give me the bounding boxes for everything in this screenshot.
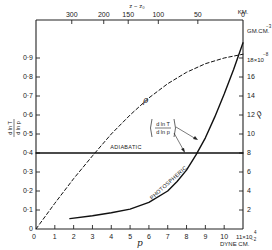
rho-curve-label: ρ	[142, 95, 149, 105]
adiabatic-label: ADIABATIC	[110, 144, 141, 150]
bottom-tick-label: 0	[32, 233, 36, 240]
left-tick-label: 0·5	[23, 130, 33, 137]
right-tick-label: 8	[247, 149, 251, 156]
left-tick-label: 0·6	[23, 111, 33, 118]
top-axis-label: z − z₀	[129, 3, 145, 9]
bottom-tick-label: 2	[72, 233, 76, 240]
gradient-annotation: d ln T d ln p	[151, 119, 199, 153]
bottom-tick-label: 8	[185, 233, 189, 240]
top-axis-unit: KM.	[238, 9, 249, 15]
photospheric-label: PHOTOSPHERIC	[149, 164, 188, 200]
bottom-tick-label: 10	[220, 233, 228, 240]
right-axis-multiplier: 18×10	[247, 57, 265, 63]
right-tick-label: 10	[247, 130, 255, 137]
left-tick-label: 0·4	[23, 149, 33, 156]
top-tick-label: 100	[152, 11, 164, 18]
left-tick-label: 0·8	[23, 73, 33, 80]
right-tick-label: 6	[247, 168, 251, 175]
left-tick-label: 0·9	[23, 54, 33, 61]
x-tick-last-exp: 4	[254, 230, 257, 235]
right-axis-unit-exp: −3	[266, 24, 272, 29]
left-tick-label: 0·2	[23, 187, 33, 194]
right-axis-multiplier-exp: −8	[263, 52, 269, 57]
bottom-tick-label: 5	[128, 233, 132, 240]
top-tick-label: 200	[98, 11, 110, 18]
right-tick-label: 2	[247, 206, 251, 213]
arrow-to-adiabatic	[174, 133, 184, 151]
top-tick-label: 50	[194, 11, 202, 18]
left-tick-label: 0·7	[23, 92, 33, 99]
bottom-tick-label: 4	[109, 233, 113, 240]
bottom-tick-label: 3	[91, 233, 95, 240]
svg-text:d ln p: d ln p	[156, 129, 169, 135]
left-tick-label: 0·3	[23, 168, 33, 175]
arrowhead-adiabatic	[181, 148, 185, 153]
right-tick-label: 4	[247, 187, 251, 194]
x-tick-last-label: 11×10	[236, 234, 253, 240]
bottom-tick-label: 1	[53, 233, 57, 240]
chart: 00·10·20·30·40·50·60·70·80·9 01234567891…	[0, 0, 272, 250]
x-axis-unit: DYNE CM.	[220, 241, 250, 247]
left-axis-label: d ln T d ln p	[7, 119, 21, 137]
svg-text:d ln T: d ln T	[7, 121, 13, 135]
arrow-to-photospheric	[176, 127, 196, 139]
bottom-tick-label: 9	[203, 233, 207, 240]
bottom-tick-label: 6	[147, 233, 151, 240]
left-tick-label: 0	[29, 225, 33, 232]
svg-text:d ln p: d ln p	[15, 121, 21, 134]
right-tick-label: 16	[247, 73, 255, 80]
top-tick-label: 300	[66, 11, 78, 18]
bottom-tick-label: 7	[166, 233, 170, 240]
left-tick-label: 0·1	[23, 206, 33, 213]
right-tick-label: 14	[247, 92, 255, 99]
top-tick-label: 150	[122, 11, 134, 18]
svg-text:d ln T: d ln T	[156, 121, 170, 127]
x-axis-label: p	[137, 238, 143, 248]
series-rho	[36, 54, 243, 229]
arrowhead-photospheric	[193, 136, 198, 140]
